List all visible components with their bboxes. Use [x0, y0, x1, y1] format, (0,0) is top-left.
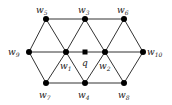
label-w10: w10 [147, 47, 163, 58]
node-w9 [26, 49, 32, 55]
edge-w9-w7 [29, 52, 46, 83]
node-w8 [121, 80, 127, 86]
node-w6 [121, 16, 127, 22]
edge-w1-w3 [66, 19, 85, 52]
label-w7: w7 [39, 90, 51, 101]
node-w4 [82, 80, 88, 86]
edge-w5-w1 [46, 19, 66, 52]
label-w9: w9 [8, 47, 20, 58]
label-q: q [82, 58, 88, 68]
label-w3: w3 [78, 5, 90, 16]
label-w6: w6 [117, 5, 129, 16]
node-w2 [102, 49, 108, 55]
edge-w3-w2 [85, 19, 105, 52]
node-w5 [43, 16, 49, 22]
edge-w2-w6 [105, 19, 124, 52]
node-w10 [140, 49, 146, 55]
label-w1: w1 [60, 61, 72, 72]
node-w1 [63, 49, 69, 55]
node-q [83, 50, 88, 55]
edge-w9-w5 [29, 19, 46, 52]
edge-w10-w8 [124, 52, 143, 83]
node-w7 [43, 80, 49, 86]
label-w2: w2 [99, 61, 111, 72]
graph-diagram: w5w3w6w9w1qw2w10w7w4w8 [0, 0, 172, 105]
label-w8: w8 [118, 90, 130, 101]
edge-w6-w10 [124, 19, 143, 52]
label-w4: w4 [78, 90, 90, 101]
node-w3 [82, 16, 88, 22]
label-w5: w5 [36, 5, 48, 16]
